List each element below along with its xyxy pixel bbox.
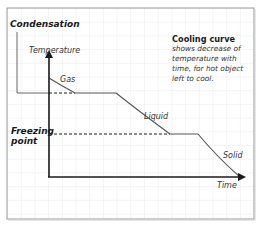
liquid-label: Liquid: [144, 112, 168, 121]
cooling-curve-note: Cooling curve shows decrease of temperat…: [172, 34, 256, 84]
cooling-curve-diagram: Condensation Temperature Gas Liquid Soli…: [0, 0, 258, 226]
note-title: Cooling curve: [172, 34, 256, 44]
condensation-label: Condensation: [10, 19, 80, 29]
solid-label: Solid: [223, 151, 243, 160]
gas-label: Gas: [60, 75, 75, 84]
note-body: shows decrease of temperature with time,…: [172, 44, 256, 84]
freezing-point-label: Freezing point: [11, 126, 54, 146]
x-axis-label: Time: [217, 181, 237, 190]
y-axis-label: Temperature: [29, 46, 80, 55]
